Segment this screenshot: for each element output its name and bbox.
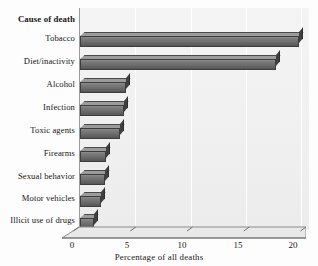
x-axis-title: Percentage of all deaths <box>0 252 318 262</box>
category-label-sexual-behavior: Sexual behavior <box>0 171 75 181</box>
bar-side-face <box>124 96 128 112</box>
category-label-column: Cause of death Tobacco Diet/inactivity A… <box>0 0 77 230</box>
x-tick-5: 5 <box>125 240 130 250</box>
bar-side-face <box>105 165 109 181</box>
category-label-diet-inactivity: Diet/inactivity <box>0 56 75 66</box>
bar-chart: Cause of death Tobacco Diet/inactivity A… <box>0 0 318 266</box>
bar-toxic-agents <box>80 128 120 139</box>
bar-sexual-behavior <box>80 174 105 185</box>
bar-side-face <box>120 119 124 135</box>
x-tick-15: 15 <box>234 240 243 250</box>
bar-front-face <box>80 36 299 47</box>
x-tick-20: 20 <box>289 240 298 250</box>
bar-side-face <box>276 50 280 66</box>
x-tick-10: 10 <box>178 240 187 250</box>
bar-diet-inactivity <box>80 59 276 70</box>
category-label-firearms: Firearms <box>0 148 75 158</box>
bar-side-face <box>94 209 98 225</box>
category-label-toxic-agents: Toxic agents <box>0 125 75 135</box>
bar-side-face <box>106 142 110 158</box>
x-axis-floor <box>62 226 306 240</box>
bar-front-face <box>80 82 126 93</box>
category-label-infection: Infection <box>0 102 75 112</box>
x-axis-svg <box>62 226 306 240</box>
bar-front-face <box>80 151 106 162</box>
gridline-20 <box>301 8 302 230</box>
category-label-tobacco: Tobacco <box>0 33 75 43</box>
category-axis-title: Cause of death <box>0 14 75 24</box>
category-label-motor-vehicles: Motor vehicles <box>0 193 75 203</box>
bar-front-face <box>80 105 124 116</box>
bar-front-face <box>80 128 120 139</box>
bar-alcohol <box>80 82 126 93</box>
category-label-alcohol: Alcohol <box>0 79 75 89</box>
bar-side-face <box>101 187 105 203</box>
plot-area <box>79 8 309 230</box>
bar-tobacco <box>80 36 299 47</box>
x-tick-0: 0 <box>70 240 75 250</box>
bar-front-face <box>80 174 105 185</box>
bar-front-face <box>80 59 276 70</box>
bar-front-face <box>80 196 101 207</box>
category-label-illicit-use-of-drugs: Illicit use of drugs <box>0 215 75 225</box>
bar-motor-vehicles <box>80 196 101 207</box>
bar-infection <box>80 105 124 116</box>
bar-side-face <box>126 73 130 89</box>
bar-firearms <box>80 151 106 162</box>
